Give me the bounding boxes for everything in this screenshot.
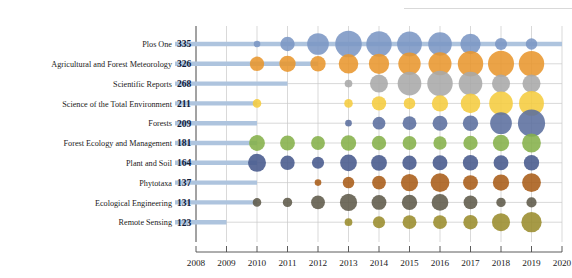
bubble-point[interactable]	[488, 51, 514, 77]
bubble-point[interactable]	[345, 218, 353, 226]
bubble-point[interactable]	[373, 117, 386, 130]
bubble-point[interactable]	[372, 176, 386, 190]
bubble-point[interactable]	[398, 72, 422, 96]
category-label: Plos One	[142, 40, 172, 49]
bubble-point[interactable]	[431, 173, 450, 192]
bubble-point[interactable]	[493, 135, 509, 151]
bubble-point[interactable]	[307, 33, 329, 55]
bubble-point[interactable]	[311, 136, 325, 150]
x-tick-label: 2020	[553, 258, 572, 268]
bubble-point[interactable]	[459, 72, 483, 96]
bubble-point[interactable]	[495, 38, 507, 50]
x-tick-label: 2009	[217, 258, 236, 268]
x-tick-label: 2011	[278, 258, 296, 268]
category-total-value: 181	[177, 137, 192, 148]
bubble-point[interactable]	[402, 195, 417, 210]
bubble-point[interactable]	[345, 120, 352, 127]
category-labels: Plos One335Agricultural and Forest Meteo…	[51, 38, 191, 227]
bubble-point[interactable]	[280, 156, 294, 170]
bubble-point[interactable]	[489, 92, 513, 116]
category-total-value: 209	[177, 118, 192, 129]
bubble-point[interactable]	[370, 75, 388, 93]
bubble-point[interactable]	[526, 197, 536, 207]
bubble-point[interactable]	[494, 155, 509, 170]
category-label: Agricultural and Forest Meteorology	[51, 60, 173, 69]
bubble-point[interactable]	[404, 98, 416, 110]
bubble-point[interactable]	[312, 157, 324, 169]
bubble-point[interactable]	[522, 75, 540, 93]
bubble-point[interactable]	[463, 155, 478, 170]
bubble-point[interactable]	[340, 154, 357, 171]
bubble-point[interactable]	[427, 71, 452, 96]
bubble-point[interactable]	[403, 215, 417, 229]
bubble-point[interactable]	[463, 116, 478, 131]
bubble-point[interactable]	[433, 116, 448, 131]
bubble-point[interactable]	[372, 195, 387, 210]
bubble-point[interactable]	[339, 54, 359, 74]
x-tick-label: 2008	[187, 258, 206, 268]
x-tick-label: 2016	[431, 258, 450, 268]
bubble-point[interactable]	[524, 155, 539, 170]
bubble-point[interactable]	[433, 215, 447, 229]
bubble-point[interactable]	[492, 75, 510, 93]
bubble-point[interactable]	[280, 136, 295, 151]
bubble-point[interactable]	[335, 31, 362, 58]
category-label: Ecological Engineering	[95, 199, 172, 208]
bubble-point[interactable]	[518, 110, 545, 137]
bubble-point[interactable]	[315, 179, 322, 186]
bubble-point[interactable]	[519, 51, 544, 76]
bubble-point[interactable]	[433, 136, 446, 149]
bubble-point[interactable]	[461, 94, 481, 114]
bubble-point[interactable]	[254, 41, 261, 48]
bubble-point[interactable]	[311, 195, 325, 209]
bubble-point[interactable]	[398, 53, 420, 75]
bubble-point[interactable]	[490, 112, 512, 134]
bubble-point[interactable]	[366, 31, 391, 56]
bubble-point[interactable]	[369, 54, 389, 74]
bubble-point[interactable]	[343, 177, 355, 189]
bubble-point[interactable]	[403, 116, 417, 130]
bubble-point[interactable]	[526, 38, 538, 50]
category-label: Phytotaxa	[139, 179, 172, 188]
bubble-point[interactable]	[253, 99, 262, 108]
bubble-point[interactable]	[492, 213, 510, 231]
category-total-value: 211	[177, 98, 191, 109]
bubble-point[interactable]	[371, 155, 387, 171]
category-total-value: 326	[177, 58, 192, 69]
bubble-point[interactable]	[249, 135, 265, 151]
bubble-point[interactable]	[522, 134, 541, 153]
category-label: Plant and Soil	[126, 159, 173, 168]
category-total-value: 137	[177, 177, 192, 188]
bubble-point[interactable]	[464, 195, 478, 209]
bubble-point[interactable]	[372, 136, 386, 150]
bubble-point[interactable]	[279, 56, 295, 72]
bubble-point[interactable]	[463, 136, 477, 150]
bubble-point[interactable]	[344, 99, 353, 108]
category-total-value: 131	[177, 197, 192, 208]
bubble-point[interactable]	[402, 156, 416, 170]
bubble-point[interactable]	[340, 194, 357, 211]
bubble-point[interactable]	[432, 95, 448, 111]
bubble-point[interactable]	[493, 174, 509, 190]
bubble-point[interactable]	[250, 57, 264, 71]
bubble-point[interactable]	[341, 135, 356, 150]
bubble-point[interactable]	[283, 198, 292, 207]
bubble-point[interactable]	[310, 56, 325, 71]
bubble-point[interactable]	[433, 155, 448, 170]
bubble-point[interactable]	[463, 215, 477, 229]
x-tick-label: 2019	[522, 258, 541, 268]
bubble-point[interactable]	[463, 175, 478, 190]
chart-canvas: 2008200920102011201220132014201520162017…	[0, 0, 572, 278]
bubble-point[interactable]	[403, 136, 417, 150]
bubble-point[interactable]	[432, 194, 449, 211]
bubble-point[interactable]	[496, 198, 505, 207]
bubble-point[interactable]	[521, 212, 541, 232]
bubble-point[interactable]	[345, 80, 353, 88]
bubble-point[interactable]	[373, 216, 385, 228]
bubble-point[interactable]	[253, 198, 262, 207]
bubble-point[interactable]	[401, 174, 418, 191]
bubble-point[interactable]	[372, 96, 386, 110]
bubble-point[interactable]	[522, 173, 541, 192]
bubble-point[interactable]	[280, 37, 294, 51]
bubble-point[interactable]	[248, 154, 266, 172]
